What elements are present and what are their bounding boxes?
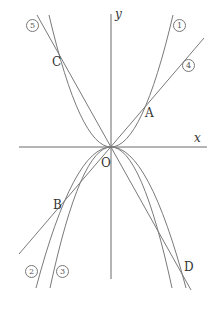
y-axis-label: y bbox=[115, 8, 122, 20]
x-axis-label: x bbox=[194, 132, 201, 144]
origin-label: O bbox=[101, 157, 111, 169]
graph-2-label: 2 bbox=[25, 265, 38, 278]
point-d-label: D bbox=[184, 261, 194, 273]
graph-5-label: 5 bbox=[26, 19, 39, 32]
diagram-canvas bbox=[0, 0, 214, 309]
graph-4-label: 4 bbox=[182, 59, 195, 72]
point-b-label: B bbox=[53, 199, 62, 211]
point-c-label: C bbox=[52, 56, 61, 68]
graph-1-label: 1 bbox=[173, 19, 186, 32]
point-a-label: A bbox=[145, 107, 154, 119]
graph-3-label: 3 bbox=[56, 265, 69, 278]
coordinate-diagram: y x O A C B D 1 4 5 2 3 bbox=[0, 0, 214, 309]
